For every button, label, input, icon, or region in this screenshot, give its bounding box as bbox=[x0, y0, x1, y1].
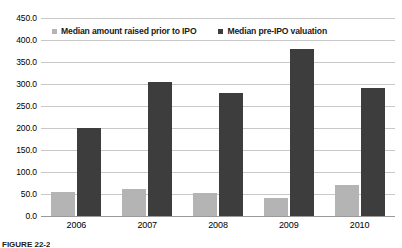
y-axis-tick-label: 450.0 bbox=[3, 13, 37, 23]
bar-group bbox=[122, 18, 172, 216]
x-axis-tick-label-2010: 2010 bbox=[324, 220, 395, 230]
x-axis-tick-label-2008: 2008 bbox=[183, 220, 254, 230]
bar-valuation-2006[interactable] bbox=[77, 128, 101, 216]
y-axis-tick-label: 250.0 bbox=[3, 101, 37, 111]
gridline-0.0 bbox=[41, 216, 395, 217]
chart-figure: 0.050.0100.0150.0200.0250.0300.0350.0400… bbox=[0, 0, 402, 248]
y-axis-tick-label: 0.0 bbox=[3, 211, 37, 221]
bar-group bbox=[51, 18, 101, 216]
x-axis-tick-label-2006: 2006 bbox=[41, 220, 112, 230]
y-axis-tick-label: 300.0 bbox=[3, 79, 37, 89]
bar-raised-2008[interactable] bbox=[193, 193, 217, 216]
y-axis-tick-label: 150.0 bbox=[3, 145, 37, 155]
y-axis-tick-label: 200.0 bbox=[3, 123, 37, 133]
legend-label: Median amount raised prior to IPO bbox=[61, 26, 196, 36]
legend-swatch-icon bbox=[52, 29, 57, 34]
bar-group bbox=[335, 18, 385, 216]
chart-legend: Median amount raised prior to IPOMedian … bbox=[52, 26, 327, 36]
x-axis-tick-label-2009: 2009 bbox=[253, 220, 324, 230]
legend-entry-raised[interactable]: Median amount raised prior to IPO bbox=[52, 26, 196, 36]
legend-entry-valuation[interactable]: Median pre-IPO valuation bbox=[218, 26, 327, 36]
bar-raised-2009[interactable] bbox=[264, 198, 288, 216]
bar-group bbox=[193, 18, 243, 216]
bar-valuation-2007[interactable] bbox=[148, 82, 172, 216]
x-axis-tick-label-2007: 2007 bbox=[112, 220, 183, 230]
y-axis-tick-label: 400.0 bbox=[3, 35, 37, 45]
bar-valuation-2009[interactable] bbox=[290, 49, 314, 216]
figure-caption: FIGURE 22-2 bbox=[2, 240, 50, 248]
bar-valuation-2008[interactable] bbox=[219, 93, 243, 216]
bar-raised-2007[interactable] bbox=[122, 189, 146, 216]
plot-area bbox=[41, 18, 395, 216]
y-axis-tick-label: 350.0 bbox=[3, 57, 37, 67]
bar-raised-2006[interactable] bbox=[51, 192, 75, 216]
y-axis-tick-label: 50.0 bbox=[3, 189, 37, 199]
bar-series-container bbox=[41, 18, 395, 216]
bar-group bbox=[264, 18, 314, 216]
bar-valuation-2010[interactable] bbox=[361, 88, 385, 216]
legend-label: Median pre-IPO valuation bbox=[227, 26, 327, 36]
bar-raised-2010[interactable] bbox=[335, 185, 359, 216]
legend-swatch-icon bbox=[218, 29, 223, 34]
y-axis-tick-label: 100.0 bbox=[3, 167, 37, 177]
